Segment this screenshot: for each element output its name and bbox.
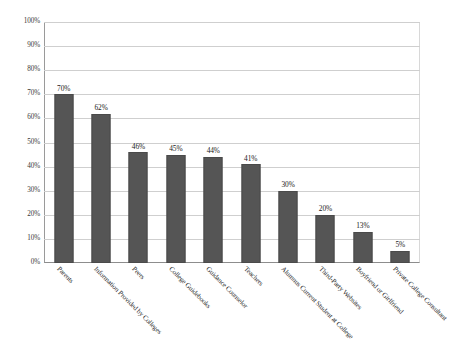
bar-value-label: 62% [94,104,107,112]
bar-value-label: 20% [319,205,332,213]
bar-group: 44% [195,22,232,263]
y-axis-tick-label: 100% [4,18,40,25]
bar-value-label: 41% [244,155,257,163]
bar-value-label: 70% [57,85,70,93]
bar [129,152,148,263]
bar-group: 13% [344,22,381,263]
y-axis-tick-label: 60% [4,115,40,122]
y-axis-tick-label: 80% [4,67,40,74]
x-axis-category-label: Alumnus Current Student at College [279,265,355,341]
x-axis-labels: ParentsInformation Provided by CollegesP… [45,265,419,363]
bar [166,155,185,263]
bar-value-label: 44% [207,147,220,155]
bar [204,157,223,263]
y-axis-tick-label: 50% [4,139,40,146]
bar-group: 45% [157,22,194,263]
bar [241,164,260,263]
bar-group: 30% [269,22,306,263]
bar [279,191,298,263]
y-axis-tick-label: 0% [4,259,40,266]
x-axis-category-label: Teachers [242,265,265,288]
bar [54,94,73,263]
y-axis-tick-label: 90% [4,42,40,49]
y-axis-tick-label: 40% [4,163,40,170]
bar-value-label: 30% [281,181,294,189]
bar-group: 5% [382,22,419,263]
x-axis-category-label: Information Provided by Colleges [92,265,163,336]
y-axis-tick-label: 70% [4,91,40,98]
bar-value-label: 45% [169,145,182,153]
bar-group: 20% [307,22,344,263]
bar-group: 46% [120,22,157,263]
bar-group: 70% [45,22,82,263]
bar [316,215,335,263]
bar [92,114,111,263]
bar [353,232,372,263]
y-axis-tick-label: 20% [4,211,40,218]
bar-value-label: 5% [395,241,405,249]
bar [391,251,410,263]
bar-value-label: 46% [132,143,145,151]
bar-group: 62% [82,22,119,263]
x-axis-category-label: Peers [130,265,146,281]
y-axis-tick-label: 10% [4,235,40,242]
bar-group: 41% [232,22,269,263]
x-axis-category-label: Parents [55,265,75,285]
bar-value-label: 13% [356,222,369,230]
bars-layer: 70%62%46%45%44%41%30%20%13%5% [45,22,419,263]
y-axis-tick-label: 30% [4,187,40,194]
